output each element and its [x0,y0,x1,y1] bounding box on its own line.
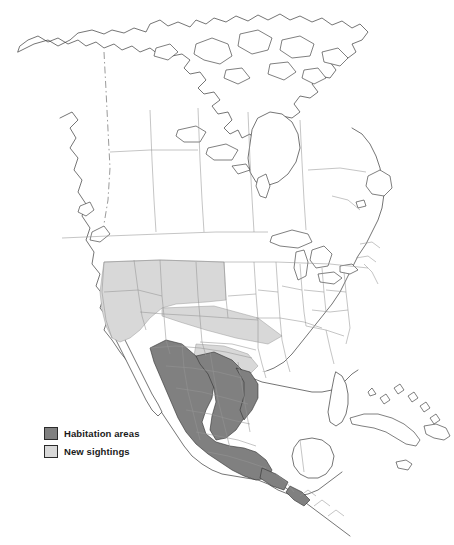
map-legend: Habitation areas New sightings [44,426,174,459]
hispaniola-outline [424,424,450,440]
legend-label-new-sightings: New sightings [64,445,130,458]
legend-label-habitation-areas: Habitation areas [64,427,140,440]
yucatan-outline [292,438,334,478]
hudson-bay-outline [248,112,300,186]
great-slave-lake [206,144,238,160]
distribution-map-figure: .coast{fill:#ffffff;stroke:#3a3a3a;strok… [0,0,454,545]
new-sightings-swatch [44,445,58,458]
jamaica-outline [396,460,412,470]
lake-athabasca [232,164,250,174]
cuba-outline [350,414,420,446]
great-bear-lake [176,126,206,142]
habitation-areas-swatch [44,427,58,440]
legend-item-habitation-areas: Habitation areas [44,426,174,441]
map-canvas: .coast{fill:#ffffff;stroke:#3a3a3a;strok… [0,0,454,545]
legend-item-new-sightings: New sightings [44,444,174,459]
